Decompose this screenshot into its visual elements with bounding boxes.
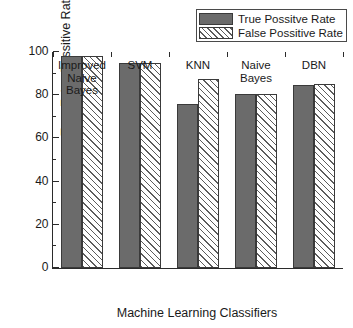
x-tick xyxy=(53,52,54,57)
legend-entry-false-positive-rate: False Possitive Rate xyxy=(199,26,343,39)
y-tick-0: 0 xyxy=(53,267,59,268)
x-tick xyxy=(169,52,170,57)
bar-chart: True Possitve Rate False Possitive Rate … xyxy=(0,0,353,328)
y-tick-label-60: 60 xyxy=(35,131,48,144)
x-tick xyxy=(111,52,112,57)
legend-entry-true-positive-rate: True Possitve Rate xyxy=(199,12,343,25)
y-tick-60: 60 xyxy=(53,137,59,138)
x-category-label-line: Bayes xyxy=(46,84,118,97)
x-tick xyxy=(343,52,344,57)
y-tick-label-20: 20 xyxy=(35,218,48,231)
x-tick xyxy=(285,52,286,57)
y-minor-tick-30 xyxy=(53,202,57,203)
chart-legend: True Possitve Rate False Possitive Rate xyxy=(196,9,347,42)
legend-label-false-positive-rate: False Possitive Rate xyxy=(238,27,343,39)
x-axis-title: Machine Learning Classifiers xyxy=(52,306,342,320)
bar-tpr xyxy=(293,85,314,268)
bar-fpr xyxy=(140,63,161,268)
y-tick-40: 40 xyxy=(53,181,59,182)
x-category-label: DBN xyxy=(278,59,350,72)
y-minor-tick-50 xyxy=(53,159,57,160)
x-category-label-line: Bayes xyxy=(220,72,292,85)
bar-fpr xyxy=(198,79,219,268)
y-minor-tick-10 xyxy=(53,245,57,246)
bar-group xyxy=(119,52,161,268)
x-category-label-line: Naive xyxy=(46,72,118,85)
y-tick-label-0: 0 xyxy=(42,261,49,274)
x-category-label-line: DBN xyxy=(278,59,350,72)
plot-area: 020406080100 ImprovedNaiveBayesSVMKNNNai… xyxy=(52,52,343,269)
bar-fpr xyxy=(314,84,335,268)
y-tick-label-40: 40 xyxy=(35,175,48,188)
bar-group xyxy=(293,52,335,268)
legend-swatch-hatch-icon xyxy=(199,27,233,39)
y-tick-label-100: 100 xyxy=(28,45,48,58)
y-minor-tick-70 xyxy=(53,116,57,117)
bar-group xyxy=(235,52,277,268)
bar-tpr xyxy=(119,63,140,268)
bar-group xyxy=(177,52,219,268)
bar-tpr xyxy=(235,94,256,268)
y-tick-20: 20 xyxy=(53,224,59,225)
legend-label-true-positive-rate: True Possitve Rate xyxy=(238,13,335,25)
bar-fpr xyxy=(256,94,277,268)
bar-tpr xyxy=(177,104,198,268)
legend-swatch-solid-icon xyxy=(199,13,233,25)
x-tick xyxy=(227,52,228,57)
